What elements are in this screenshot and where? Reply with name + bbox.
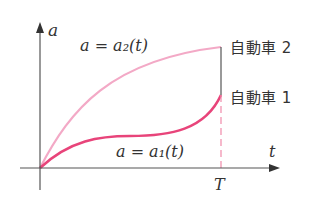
car2-formula: a = a₂(t) [80, 36, 148, 55]
y-axis-arrow-icon [36, 22, 44, 33]
car2-label: 自動車 2 [230, 36, 292, 57]
t-tick-label: T [214, 175, 225, 194]
car1-label: 自動車 1 [230, 86, 292, 107]
x-axis-arrow-icon [269, 164, 280, 172]
x-axis-label: t [269, 142, 275, 161]
car1-formula: a = a₁(t) [116, 142, 184, 161]
y-axis-label: a [48, 20, 58, 40]
